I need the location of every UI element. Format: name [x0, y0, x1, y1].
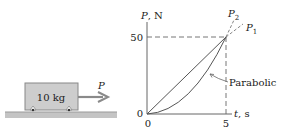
diagram-canvas: 10 kg P P, N t, s 50 0 0 5 P2 P1 Parabol…: [0, 0, 287, 133]
y-tick-0: 0: [137, 108, 143, 119]
label-p2: P2: [227, 8, 239, 22]
curve-p2-extension: [226, 20, 234, 37]
line-p1-extension: [226, 24, 243, 37]
y-axis-label: P, N: [140, 10, 163, 21]
wheel-right-dot: [68, 109, 70, 111]
x-axis-label: t, s: [234, 108, 250, 119]
line-p1: [147, 37, 226, 114]
ground: [5, 112, 117, 118]
label-p1: P1: [245, 22, 257, 36]
parabolic-annotation: Parabolic: [229, 77, 277, 88]
wheel-left-dot: [32, 109, 34, 111]
block-mass-label: 10 kg: [37, 92, 66, 103]
y-tick-50: 50: [130, 32, 143, 43]
annotation-leader: [210, 74, 228, 82]
force-label: P: [97, 80, 105, 91]
x-tick-0: 0: [145, 118, 151, 129]
x-tick-5: 5: [223, 118, 229, 129]
